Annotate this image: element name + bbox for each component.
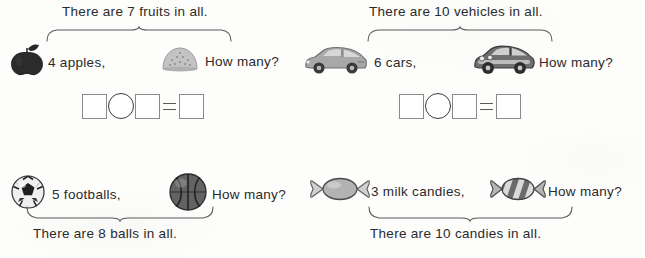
problem-vehicles-total-caption: There are 10 vehicles in all. bbox=[369, 4, 543, 19]
candy-striped-icon bbox=[489, 175, 547, 207]
problem-candies-unknown-row: How many? bbox=[489, 175, 622, 207]
problem-vehicles-brace-up bbox=[367, 26, 553, 42]
candy-plain-icon bbox=[309, 175, 371, 207]
equation-box-2[interactable] bbox=[452, 94, 477, 119]
equation-box-3[interactable] bbox=[179, 94, 204, 119]
problem-vehicles-known-row: 6 cars, bbox=[302, 44, 417, 80]
problem-fruits-known-label: 4 apples, bbox=[48, 55, 106, 70]
equals-sign-icon bbox=[161, 94, 178, 119]
problem-fruits-unknown-row: How many? bbox=[158, 44, 279, 78]
equation-box-3[interactable] bbox=[496, 94, 521, 119]
problem-candies-known-label: 3 milk candies, bbox=[371, 184, 465, 199]
bun-icon bbox=[158, 44, 202, 78]
problem-fruits-brace-up bbox=[46, 26, 232, 42]
problem-candies-unknown-label: How many? bbox=[548, 184, 622, 199]
problem-fruits-equation bbox=[82, 93, 204, 119]
equation-box-1[interactable] bbox=[82, 94, 107, 119]
problem-candies-total-caption: There are 10 candies in all. bbox=[370, 226, 541, 241]
problem-vehicles-unknown-row: How many? bbox=[472, 43, 613, 81]
problem-fruits-total-caption: There are 7 fruits in all. bbox=[62, 4, 208, 19]
problem-candies-known-row: 3 milk candies, bbox=[309, 175, 465, 207]
equation-box-2[interactable] bbox=[135, 94, 160, 119]
equals-sign-icon bbox=[478, 94, 495, 119]
problem-candies-brace-down bbox=[368, 206, 573, 222]
equation-operator-circle[interactable] bbox=[108, 93, 134, 119]
problem-balls-known-label: 5 footballs, bbox=[52, 187, 121, 202]
problem-balls-brace-down bbox=[26, 206, 214, 222]
apple-icon bbox=[6, 42, 46, 82]
problem-balls-total-caption: There are 8 balls in all. bbox=[33, 226, 177, 241]
hatchback-car-icon bbox=[302, 44, 370, 80]
problem-vehicles-known-label: 6 cars, bbox=[374, 55, 417, 70]
problem-vehicles-unknown-label: How many? bbox=[539, 55, 613, 70]
problem-balls-unknown-label: How many? bbox=[212, 187, 286, 202]
worksheet-page: There are 7 fruits in all. 4 apples, bbox=[0, 0, 645, 258]
problem-vehicles-equation bbox=[399, 93, 521, 119]
equation-operator-circle[interactable] bbox=[425, 93, 451, 119]
equation-box-1[interactable] bbox=[399, 94, 424, 119]
problem-fruits-known-row: 4 apples, bbox=[6, 42, 106, 82]
classic-car-icon bbox=[472, 43, 538, 81]
problem-fruits-unknown-label: How many? bbox=[205, 54, 279, 69]
